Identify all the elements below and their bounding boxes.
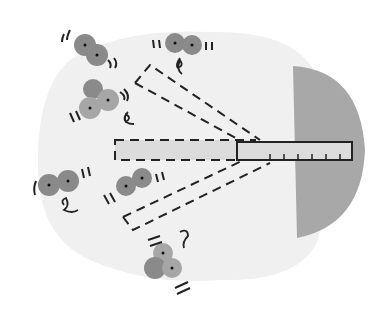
rod-dashed-extension	[115, 140, 255, 160]
ruler-rod	[237, 142, 352, 160]
diffusion-diagram	[0, 0, 385, 309]
